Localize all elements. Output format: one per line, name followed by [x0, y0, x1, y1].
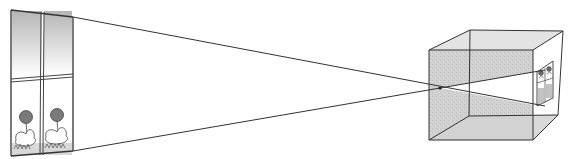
- flower-left: [14, 111, 36, 150]
- window-pane-top-left: [12, 11, 42, 77]
- box-camera: [429, 30, 563, 140]
- pinhole-camera-diagram: [0, 0, 573, 159]
- inverted-image: [537, 61, 553, 106]
- window-object: [11, 10, 73, 156]
- window-pane-top-right: [44, 11, 72, 75]
- flower-right: [45, 109, 68, 149]
